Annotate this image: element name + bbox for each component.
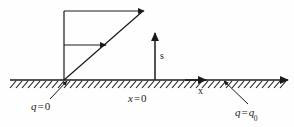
figure-canvas: q=0 x=0 q=q0 s x: [0, 0, 294, 127]
label-q-q0-op: =: [241, 106, 249, 118]
leader-line-q-q0: [224, 81, 248, 104]
label-q-q0-subscript: 0: [254, 114, 258, 123]
ground-surface: [10, 80, 288, 88]
label-q-zero-var: q: [31, 100, 37, 112]
label-x-zero-value: 0: [141, 92, 147, 104]
s-axis-label: s: [160, 51, 164, 61]
label-q-equals-zero: q=0: [31, 101, 50, 112]
label-x-equals-zero: x=0: [128, 93, 147, 104]
x-axis-label: x: [198, 86, 203, 96]
leader-line-q-zero: [50, 81, 67, 99]
label-q-equals-q0: q=q0: [235, 107, 258, 121]
ground-hatching: [10, 81, 286, 88]
label-q-q0-var: q: [235, 106, 241, 118]
label-q-zero-op: =: [37, 100, 45, 112]
label-x-zero-op: =: [133, 92, 141, 104]
velocity-profile: [64, 11, 144, 80]
label-q-zero-value: 0: [45, 100, 51, 112]
